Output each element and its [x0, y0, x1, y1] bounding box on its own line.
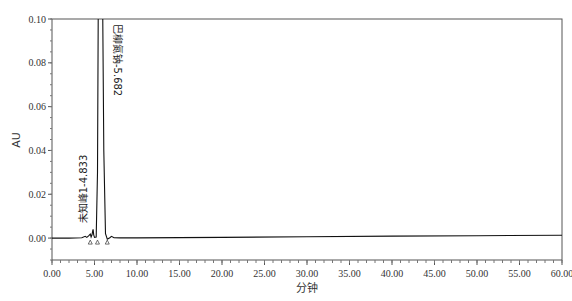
peak-markers — [88, 240, 109, 244]
x-axis-title: 分钟 — [296, 281, 318, 295]
y-axis: 0.000.020.040.060.080.10 — [29, 14, 53, 261]
x-tick-label: 55.00 — [508, 268, 531, 279]
peak-label-unknown1: 未知峰1-4.833 — [77, 155, 89, 224]
x-tick-label: 0.00 — [43, 268, 61, 279]
plot-frame — [52, 19, 562, 260]
x-tick-label: 30.00 — [296, 268, 319, 279]
x-tick-label: 40.00 — [381, 268, 404, 279]
x-tick-label: 15.00 — [168, 268, 191, 279]
x-tick-label: 5.00 — [86, 268, 104, 279]
x-tick-label: 50.00 — [466, 268, 489, 279]
y-tick-label: 0.06 — [29, 101, 47, 112]
y-tick-label: 0.08 — [29, 57, 47, 68]
y-tick-label: 0.10 — [29, 14, 47, 25]
plot-area — [52, 0, 562, 239]
y-tick-label: 0.02 — [29, 189, 47, 200]
chromatogram-chart: 0.000.020.040.060.080.10 0.005.0010.0015… — [0, 0, 572, 301]
peak-label-balsalazide: 巴柳氮钠-5.682 — [112, 24, 124, 96]
x-tick-label: 60.00 — [551, 268, 572, 279]
y-tick-label: 0.04 — [29, 145, 47, 156]
chromatogram-trace — [52, 0, 562, 239]
x-tick-label: 25.00 — [253, 268, 276, 279]
x-tick-label: 20.00 — [211, 268, 234, 279]
y-tick-label: 0.00 — [29, 233, 47, 244]
x-tick-label: 45.00 — [423, 268, 446, 279]
y-axis-title: AU — [10, 132, 23, 148]
x-tick-label: 10.00 — [126, 268, 149, 279]
peak-marker-icon — [88, 240, 92, 244]
peak-marker-icon — [105, 240, 109, 244]
peak-marker-icon — [95, 240, 99, 244]
peak-annotations: 未知峰1-4.833巴柳氮钠-5.682 — [77, 24, 124, 223]
x-axis: 0.005.0010.0015.0020.0025.0030.0035.0040… — [43, 260, 572, 279]
x-tick-label: 35.00 — [338, 268, 361, 279]
